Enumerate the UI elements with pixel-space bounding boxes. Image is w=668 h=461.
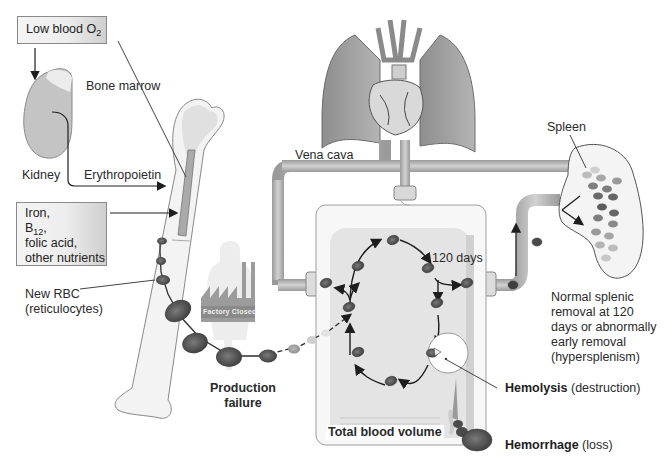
vena-cava-label: Vena cava <box>295 148 353 163</box>
new-rbc-label: New RBC (reticulocytes) <box>25 287 103 317</box>
total-blood-volume-label: Total blood volume <box>326 425 444 440</box>
blood-volume-reservoir <box>316 200 486 445</box>
lungs-heart-illustration <box>322 20 475 152</box>
erythropoietin-label: Erythropoietin <box>84 168 161 183</box>
nutrients-line-folic: folic acid, <box>25 236 106 251</box>
120-days-label: 120 days <box>432 251 483 266</box>
nutrients-box: Iron, B12, folic acid, other nutrients <box>16 202 107 266</box>
nutrients-line-b12: B12, <box>25 221 106 236</box>
bone-marrow-label: Bone marrow <box>86 79 160 94</box>
kidney-illustration <box>24 48 164 186</box>
splenic-removal-label: Normal splenic removal at 120 days or ab… <box>551 290 657 365</box>
hemorrhage-label: Hemorrhage (loss) <box>505 438 613 453</box>
o2-subscript: 2 <box>96 28 101 38</box>
low-blood-o2-label: Low blood O <box>26 22 96 36</box>
hemolysis-label: Hemolysis (destruction) <box>505 381 640 396</box>
femur-bone-illustration <box>110 41 224 418</box>
nutrients-line-iron: Iron, <box>25 206 106 221</box>
spleen-label: Spleen <box>547 120 586 135</box>
nutrients-line-other: other nutrients <box>25 251 106 266</box>
spleen-illustration <box>559 135 643 278</box>
kidney-label: Kidney <box>22 168 60 183</box>
production-failure-label: Production failure <box>208 381 278 411</box>
factory-closed-sign: Factory Closed <box>203 307 256 317</box>
low-blood-o2-box: Low blood O2 <box>17 16 107 44</box>
